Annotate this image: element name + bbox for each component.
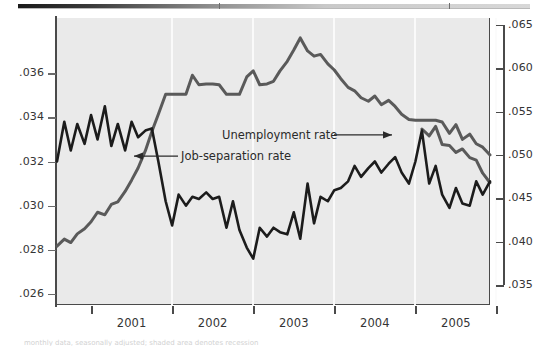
series-layer — [0, 0, 544, 346]
arrow-unemployment-head — [383, 131, 392, 138]
figure-page: .036.034.032.030.028.026 .065.060.055.05… — [0, 0, 544, 346]
figure-caption-partial: monthly data, seasonally adjusted; shade… — [24, 339, 524, 346]
arrow-job-separation-head — [134, 152, 143, 159]
annotation-unemployment-rate: Unemployment rate — [222, 128, 337, 142]
annotation-job-separation-rate: Job-separation rate — [181, 149, 291, 163]
